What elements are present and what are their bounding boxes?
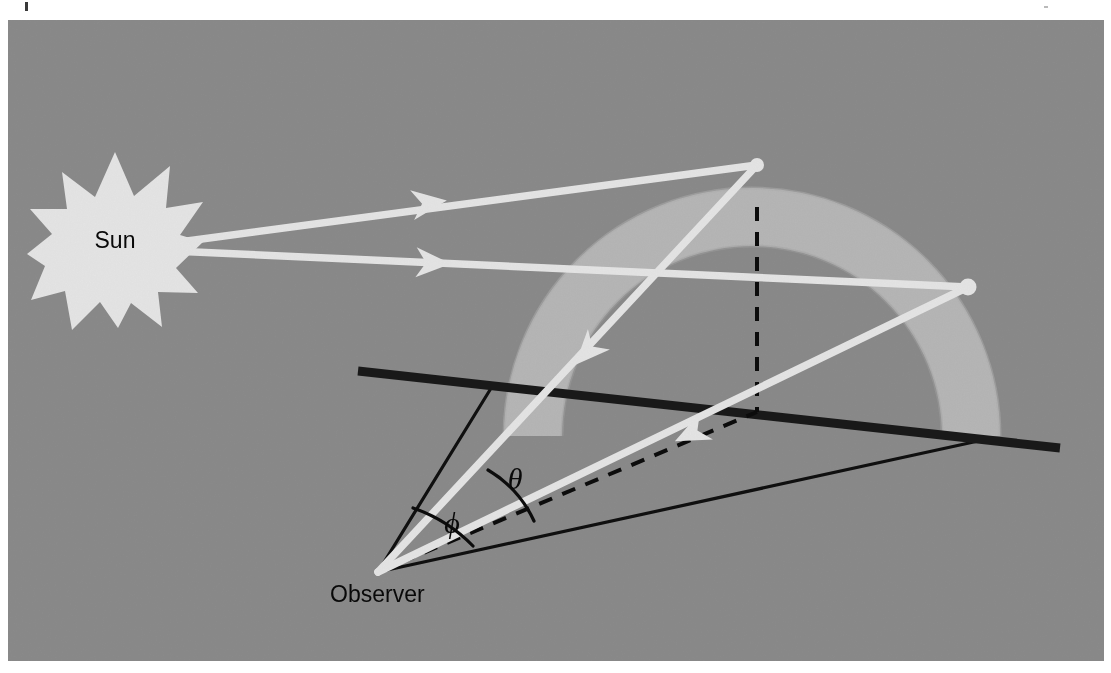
figure-canvas: Sun θ ϕ Observer xyxy=(0,0,1111,673)
scan-speck-top-right xyxy=(1044,6,1048,8)
diagram-panel: Sun θ ϕ Observer xyxy=(8,20,1104,661)
scan-speck-top-left xyxy=(25,2,28,11)
rainbow-geometry-figure: Sun θ ϕ Observer xyxy=(0,0,1111,673)
panel-grain-overlay xyxy=(8,20,1104,661)
